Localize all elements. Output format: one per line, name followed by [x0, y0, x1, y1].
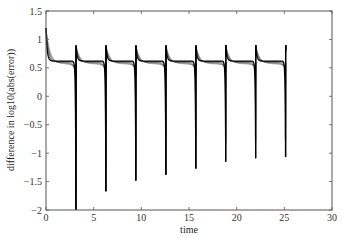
y-tick-label: 0.5 — [30, 62, 43, 73]
x-tick-label: 30 — [327, 212, 337, 223]
plot-lines — [46, 28, 286, 210]
y-tick-label: −2 — [31, 205, 42, 216]
plot-frame — [46, 11, 332, 210]
y-axis-label: difference in log10(abs(error)) — [5, 49, 17, 171]
x-axis: 051015202530 — [44, 11, 338, 223]
x-axis-label: time — [180, 224, 198, 235]
y-tick-label: 1.5 — [30, 6, 43, 17]
line-chart: 051015202530 −2−1.5−1−0.500.511.5 time d… — [0, 0, 342, 242]
x-tick-label: 5 — [91, 212, 96, 223]
y-tick-label: 1 — [37, 34, 42, 45]
y-tick-label: −1.5 — [24, 176, 42, 187]
x-tick-label: 0 — [44, 212, 49, 223]
x-tick-label: 25 — [279, 212, 289, 223]
y-tick-label: −0.5 — [24, 119, 42, 130]
y-tick-label: −1 — [31, 148, 42, 159]
y-tick-label: 0 — [37, 91, 42, 102]
x-tick-label: 20 — [232, 212, 242, 223]
x-tick-label: 15 — [184, 212, 194, 223]
x-tick-label: 10 — [136, 212, 146, 223]
